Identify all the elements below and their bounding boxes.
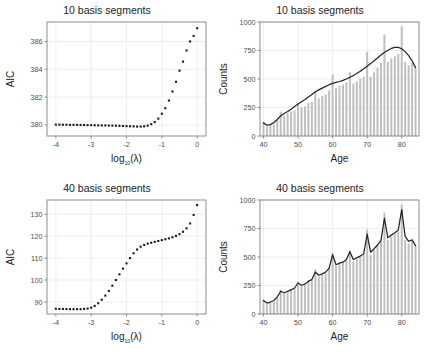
x-axis-title: log10(λ)	[111, 331, 142, 344]
x-axis-tick-label: 70	[363, 318, 371, 327]
data-point	[189, 222, 191, 224]
data-point	[171, 236, 173, 238]
histogram-bar	[411, 63, 413, 136]
histogram-bar	[390, 58, 392, 136]
x-axis-tick-label: -3	[88, 318, 94, 327]
histogram-bar	[377, 246, 379, 314]
histogram-bar	[297, 104, 299, 136]
data-point	[189, 40, 191, 42]
y-axis-tick-label: 100	[31, 276, 43, 285]
data-point	[136, 125, 138, 127]
data-point	[97, 302, 99, 304]
histogram-bar	[359, 257, 361, 314]
data-point	[178, 70, 180, 72]
x-axis-tick-label: 0	[195, 318, 199, 327]
x-axis-tick-label: -4	[53, 140, 59, 149]
x-axis-tick-label: -2	[123, 140, 129, 149]
x-axis-tick-label: 40	[259, 318, 267, 327]
data-point	[83, 124, 85, 126]
y-axis-tick-label: 120	[31, 232, 43, 241]
data-point	[72, 124, 74, 126]
data-point	[147, 125, 149, 127]
data-point	[175, 81, 177, 83]
x-axis-tick-label: -4	[53, 318, 59, 327]
x-axis-tick-label: 60	[329, 140, 337, 149]
histogram-bar	[352, 262, 354, 314]
y-axis-tick-label: 0	[252, 132, 256, 141]
data-point	[196, 27, 198, 29]
x-axis-tick-label: 40	[259, 140, 267, 149]
histogram-bar	[415, 68, 417, 136]
histogram-bar	[287, 113, 289, 136]
y-axis-title: AIC	[5, 71, 16, 88]
histogram-bar	[411, 241, 413, 314]
histogram-bar	[304, 284, 306, 314]
data-point	[164, 107, 166, 109]
data-point	[147, 243, 149, 245]
data-point	[104, 295, 106, 297]
x-axis-tick-label: -1	[159, 140, 165, 149]
histogram-bar	[287, 291, 289, 314]
histogram-bar	[276, 298, 278, 314]
data-point	[154, 121, 156, 123]
data-point	[133, 252, 135, 254]
y-axis-title: Counts	[218, 241, 229, 273]
histogram-bar	[366, 52, 368, 136]
x-axis-title: Age	[331, 331, 349, 342]
histogram-bar	[300, 286, 302, 315]
data-point	[118, 125, 120, 127]
data-point	[111, 285, 113, 287]
y-axis-tick-label: 0	[252, 310, 256, 319]
data-point	[72, 308, 74, 310]
histogram-bar	[307, 103, 309, 136]
data-point	[101, 299, 103, 301]
data-point	[87, 124, 89, 126]
histogram-bar	[397, 54, 399, 136]
data-point	[111, 125, 113, 127]
data-point	[168, 99, 170, 101]
data-point	[115, 125, 117, 127]
y-axis-tick-label: 750	[244, 46, 256, 55]
histogram-bar	[408, 243, 410, 314]
data-point	[58, 124, 60, 126]
y-axis-tick-label: 750	[244, 224, 256, 233]
y-axis-tick-label: 380	[31, 120, 43, 129]
histogram-bar	[401, 27, 403, 136]
data-point	[104, 124, 106, 126]
data-point	[143, 125, 145, 127]
histogram-bar	[266, 304, 268, 314]
histogram-bar	[318, 276, 320, 314]
histogram-bar	[273, 123, 275, 136]
histogram-bar	[390, 236, 392, 314]
histogram-bar	[370, 77, 372, 136]
x-axis-tick-label: 50	[294, 140, 302, 149]
x-axis-tick-label: 70	[363, 140, 371, 149]
histogram-bar	[383, 213, 385, 314]
histogram-bar	[339, 264, 341, 314]
data-point	[80, 308, 82, 310]
histogram-bar	[325, 272, 327, 314]
y-axis-tick-label: 386	[31, 37, 43, 46]
data-point	[154, 241, 156, 243]
data-point	[182, 231, 184, 233]
data-point	[76, 308, 78, 310]
y-axis-tick-label: 1000	[240, 18, 256, 27]
histogram-bar	[404, 240, 406, 314]
histogram-bar	[373, 72, 375, 136]
x-axis-tick-label: 80	[398, 318, 406, 327]
histogram-bar	[342, 85, 344, 136]
data-point	[65, 308, 67, 310]
histogram-bar	[314, 92, 316, 136]
data-point	[193, 35, 195, 37]
histogram-bar	[294, 110, 296, 136]
data-point	[62, 124, 64, 126]
x-axis-title: log10(λ)	[111, 153, 142, 166]
plot-aic-40-basis: 90100110120130-4-3-2-10AIClog10(λ)	[0, 182, 214, 357]
histogram-bar	[345, 260, 347, 314]
x-axis-title-main: log	[111, 331, 124, 342]
x-axis-tick-label: -2	[123, 318, 129, 327]
x-axis-tick-label: 50	[294, 318, 302, 327]
data-point	[164, 238, 166, 240]
panel-aic-10-basis: 10 basis segments 380382384386-4-3-2-10A…	[0, 4, 214, 179]
data-point	[87, 307, 89, 309]
